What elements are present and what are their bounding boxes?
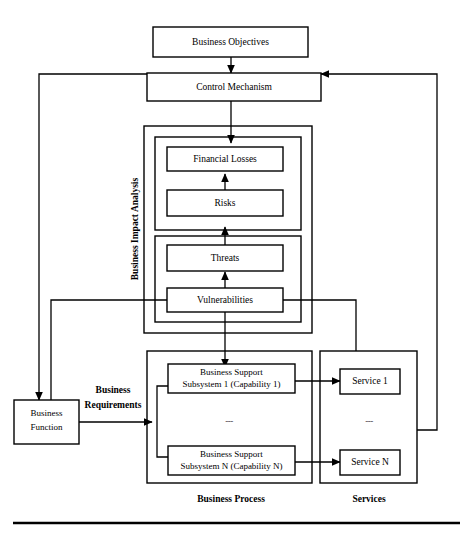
edge-business-function-to-vulnerabilities: [51, 300, 178, 412]
label-business-requirements-line1: Business: [96, 385, 131, 395]
node-business-objectives-label: Business Objectives: [192, 37, 269, 47]
node-subsystem-n-label-line2: Subsystem N (Capability N): [180, 461, 282, 471]
ellipsis-services: ---: [365, 416, 373, 426]
diagram-canvas: Business Objectives Control Mechanism Fi…: [0, 0, 462, 540]
diagram-svg: Business Objectives Control Mechanism Fi…: [0, 0, 462, 540]
node-control-mechanism-label: Control Mechanism: [196, 82, 272, 92]
node-subsystem-n-label-line1: Business Support: [200, 449, 263, 459]
label-business-process: Business Process: [197, 494, 265, 504]
label-services: Services: [352, 494, 386, 504]
node-threats-label: Threats: [211, 253, 240, 263]
edge-services-to-vulnerabilities: [272, 300, 356, 351]
edge-business-process-bus: [157, 386, 168, 457]
node-service-n-label: Service N: [351, 457, 389, 467]
label-business-requirements-line2: Requirements: [85, 400, 142, 410]
ellipsis-business-process: ---: [225, 416, 233, 426]
node-vulnerabilities-label: Vulnerabilities: [197, 295, 253, 305]
node-service-1-label: Service 1: [352, 376, 388, 386]
label-business-impact-analysis: Business Impact Analysis: [130, 177, 140, 280]
node-subsystem-1-label-line2: Subsystem 1 (Capability 1): [182, 379, 280, 389]
node-financial-losses-label: Financial Losses: [193, 154, 257, 164]
node-subsystem-1-label-line1: Business Support: [200, 367, 263, 377]
node-risks-label: Risks: [214, 198, 235, 208]
